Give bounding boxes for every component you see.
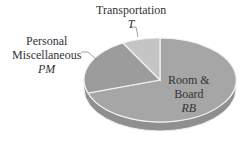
label-transportation-name: Transportation bbox=[96, 3, 166, 17]
label-personal-misc: Personal Miscellaneous PM bbox=[12, 34, 81, 76]
label-transportation-abbr: T bbox=[96, 17, 166, 31]
label-transportation: Transportation T bbox=[96, 3, 166, 31]
label-pm-abbr: PM bbox=[12, 62, 81, 76]
pie-chart: Transportation T Personal Miscellaneous … bbox=[0, 0, 241, 156]
label-rb-abbr: RB bbox=[168, 101, 210, 115]
label-rb-name-2: Board bbox=[168, 87, 210, 101]
label-room-board: Room & Board RB bbox=[168, 73, 210, 115]
label-rb-name-1: Room & bbox=[168, 73, 210, 87]
label-pm-name-1: Personal bbox=[12, 34, 81, 48]
label-pm-name-2: Miscellaneous bbox=[12, 48, 81, 62]
